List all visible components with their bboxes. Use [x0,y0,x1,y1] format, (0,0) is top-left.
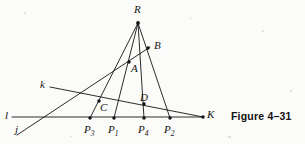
paper-speck [228,136,231,138]
point-label-P1-subscript: 1 [115,129,119,138]
point-dot-P2 [168,116,171,119]
paper-speck [70,136,72,137]
point-dot-B [146,46,149,49]
line-label-l-text: l [5,109,8,121]
paper-speck [190,18,192,19]
point-label-K-text: K [207,108,214,120]
line-label-k: k [40,79,45,90]
point-label-A: A [131,63,138,74]
point-dot-R [136,21,140,25]
point-label-P4-text: P [138,123,145,135]
point-label-P3-subscript: 3 [91,129,95,138]
point-label-C: C [100,102,107,113]
point-label-P1-text: P [108,123,115,135]
paper-speck [262,30,264,32]
point-label-P2-text: P [164,123,171,135]
line-label-j: j [15,124,18,135]
point-label-R-text: R [134,3,141,15]
point-dot-P3 [88,116,91,119]
point-label-P1: P1 [108,124,118,135]
point-label-P4-subscript: 4 [145,129,149,138]
point-dot-K [201,115,204,118]
point-label-D: D [140,92,148,103]
point-label-A-text: A [131,62,138,74]
point-label-P3: P3 [84,124,94,135]
paper-speck [24,12,26,14]
point-label-P2: P2 [164,124,174,135]
point-label-P3-text: P [84,123,91,135]
line-k [50,87,203,117]
point-dot-P4 [142,116,145,119]
point-label-C-text: C [100,101,107,113]
point-label-P4: P4 [138,124,148,135]
point-label-K: K [207,109,214,120]
geometry-diagram [0,0,305,144]
paper-speck [290,90,292,92]
point-label-P2-subscript: 2 [171,129,175,138]
point-dot-P1 [112,116,115,119]
point-label-D-text: D [140,91,148,103]
point-label-R: R [134,4,141,15]
line-label-j-text: j [15,123,18,135]
line-j [17,47,150,135]
figure-page: R B A C D K P3 P1 P4 P2 k l j Figure 4–3… [0,0,305,144]
line-label-l: l [5,110,8,121]
point-label-B-text: B [154,39,161,51]
point-label-B: B [154,40,161,51]
figure-caption: Figure 4–31 [231,111,292,122]
line-label-k-text: k [40,78,45,90]
